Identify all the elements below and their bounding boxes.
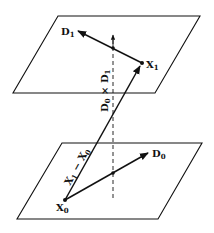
bottom-plane (17, 143, 202, 219)
skew-lines-diagram: D1 X1 D0 X0 D0 × D1 X1 − X0 (0, 0, 214, 233)
d1-direction-arrow (78, 31, 142, 63)
x1-label: X1 (146, 59, 159, 72)
x0-label: X0 (56, 202, 69, 215)
d0-label: D0 (152, 148, 166, 161)
d1-label: D1 (61, 26, 75, 39)
difference-label: X1 − X0 (62, 146, 93, 188)
cross-product-label: D0 × D1 (99, 69, 112, 112)
x1-point (140, 61, 144, 65)
bottom-intersection-point (111, 171, 115, 175)
top-intersection-point (111, 46, 115, 50)
